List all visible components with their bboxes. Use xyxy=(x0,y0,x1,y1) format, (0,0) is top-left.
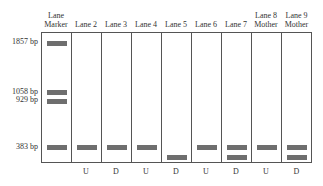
band-low xyxy=(287,155,307,160)
lane-7 xyxy=(222,33,252,162)
status-lane-2: U xyxy=(71,167,101,176)
header-lane-2: Lane 2 xyxy=(71,0,101,32)
header-lane-5: Lane 5 xyxy=(161,0,191,32)
header-lane-marker: LaneMarker xyxy=(41,0,71,32)
band-1058 xyxy=(47,90,67,95)
band-1857 xyxy=(47,41,67,46)
lane-5 xyxy=(162,33,192,162)
header-lane-6: Lane 6 xyxy=(191,0,221,32)
lane-8 xyxy=(252,33,282,162)
band-929 xyxy=(47,99,67,104)
header-lane-9: Lane 9Mother xyxy=(281,0,312,32)
status-lane-3: D xyxy=(101,167,131,176)
lane-6 xyxy=(192,33,222,162)
lane-marker xyxy=(42,33,72,162)
size-label-929: 929 bp xyxy=(0,96,38,104)
band-383 xyxy=(107,145,127,150)
band-383 xyxy=(47,145,67,150)
lane-2 xyxy=(72,33,102,162)
status-lane-5: D xyxy=(161,167,191,176)
band-383 xyxy=(137,145,157,150)
header-lane-4: Lane 4 xyxy=(131,0,161,32)
header-lane-8: Lane 8Mother xyxy=(251,0,281,32)
status-lane-7: D xyxy=(221,167,251,176)
band-383 xyxy=(287,145,307,150)
band-low xyxy=(227,155,247,160)
band-low xyxy=(167,155,187,160)
header-lane-7: Lane 7 xyxy=(221,0,251,32)
status-lane-8: U xyxy=(251,167,281,176)
status-lane-6: U xyxy=(191,167,221,176)
status-lane-4: U xyxy=(131,167,161,176)
band-383 xyxy=(227,145,247,150)
gel-diagram xyxy=(41,32,312,163)
lane-3 xyxy=(102,33,132,162)
lane-4 xyxy=(132,33,162,162)
band-383 xyxy=(77,145,97,150)
band-383 xyxy=(257,145,277,150)
status-lane-9: D xyxy=(281,167,312,176)
size-label-383: 383 bp xyxy=(0,143,38,151)
header-lane-3: Lane 3 xyxy=(101,0,131,32)
lane-9 xyxy=(282,33,311,162)
size-label-1857: 1857 bp xyxy=(0,38,38,46)
band-383 xyxy=(197,145,217,150)
